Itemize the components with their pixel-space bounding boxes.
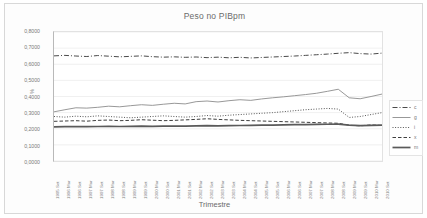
y-axis-tick-label: 0,3000 xyxy=(0,110,40,116)
legend-item-m[interactable]: m xyxy=(392,144,422,151)
x-axis-tick-label: 2004 Set xyxy=(253,181,258,199)
y-axis-tick-label: 0,8000 xyxy=(0,28,40,34)
x-axis-tick-label: 2002 Mar xyxy=(198,180,203,199)
x-axis-tick-label: 2007 Mar xyxy=(308,180,313,199)
x-axis-tick-label: 1996 Mar xyxy=(66,180,71,199)
x-axis-tick-label: 2007 Set xyxy=(319,181,324,199)
legend-label-i: i xyxy=(414,124,415,131)
series-line-i xyxy=(54,108,382,117)
y-axis-tick-label: 0,4000 xyxy=(0,94,40,100)
legend-label-c: c xyxy=(414,104,417,111)
legend-swatch-i xyxy=(392,124,411,131)
x-axis-tick-label: 2010 Mar xyxy=(374,180,379,199)
legend-label-x: x xyxy=(414,134,417,141)
legend-swatch-x xyxy=(392,134,411,141)
series-lines xyxy=(54,32,382,161)
y-axis-tick-label: 0,7000 xyxy=(0,44,40,50)
x-axis-tick-label: 1999 Set xyxy=(143,181,148,199)
y-axis-tick-label: 0,1000 xyxy=(0,143,40,149)
legend-swatch-m xyxy=(392,144,411,151)
legend-item-x[interactable]: x xyxy=(392,134,422,141)
legend-item-g[interactable]: g xyxy=(392,114,422,121)
legend-swatch-c xyxy=(392,104,411,111)
legend-item-i[interactable]: i xyxy=(392,124,422,131)
x-axis-tick-label: 1996 Set xyxy=(77,181,82,199)
x-axis-tick-label: 2001 Mar xyxy=(176,180,181,199)
x-axis-tick-label: 2008 Mar xyxy=(330,180,335,199)
x-axis-tick-label: 1998 Mar xyxy=(110,180,115,199)
x-axis-tick-label: 2000 Mar xyxy=(154,180,159,199)
x-axis-tick-label: 2005 Set xyxy=(275,181,280,199)
x-axis-tick-label: 2006 Mar xyxy=(286,180,291,199)
x-axis-tick-label: 2000 Set xyxy=(165,181,170,199)
x-axis-tick-label: 1997 Set xyxy=(99,181,104,199)
chart-legend[interactable]: cgixm xyxy=(389,100,423,156)
x-axis-tick-label: 2009 Mar xyxy=(352,180,357,199)
x-axis-title: Trimestre xyxy=(5,200,424,209)
series-line-c xyxy=(54,53,382,58)
x-axis-tick-label: 2003 Set xyxy=(231,181,236,199)
x-axis-tick-label: 2002 Set xyxy=(209,181,214,199)
y-axis-tick-label: 0,2000 xyxy=(0,126,40,132)
legend-label-m: m xyxy=(414,144,418,151)
x-axis-tick-label: 2003 Mar xyxy=(220,180,225,199)
x-axis-tick-label: 2010 Set xyxy=(385,181,390,199)
legend-swatch-g xyxy=(392,114,411,121)
plot-area xyxy=(53,31,383,162)
x-axis-tick-label: 2006 Set xyxy=(297,181,302,199)
chart-title: Peso no PIBpm xyxy=(5,11,424,21)
x-axis-tick-label: 2009 Set xyxy=(363,181,368,199)
y-axis-tick-label: 0,0000 xyxy=(0,159,40,165)
x-axis-tick-label: 2004 Mar xyxy=(242,180,247,199)
x-axis-tick-label: 1999 Mar xyxy=(132,180,137,199)
x-axis-tick-label: 1997 Mar xyxy=(88,180,93,199)
x-axis-tick-label: 1995 Set xyxy=(55,181,60,199)
legend-label-g: g xyxy=(414,114,417,121)
x-axis-tick-label: 2001 Set xyxy=(187,181,192,199)
y-axis-tick-label: 0,5000 xyxy=(0,77,40,83)
x-axis-tick-label: 1998 Set xyxy=(121,181,126,199)
legend-item-c[interactable]: c xyxy=(392,104,422,111)
series-line-g xyxy=(54,89,382,112)
x-axis-tick-labels: 1995 Set1996 Mar1996 Set1997 Mar1997 Set… xyxy=(53,163,383,201)
x-axis-tick-label: 2005 Mar xyxy=(264,180,269,199)
series-line-m xyxy=(54,124,382,127)
x-axis-tick-label: 2008 Set xyxy=(341,181,346,199)
y-axis-tick-label: 0,6000 xyxy=(0,61,40,67)
chart-card: Peso no PIBpm % 0,80000,70000,60000,5000… xyxy=(4,3,423,214)
